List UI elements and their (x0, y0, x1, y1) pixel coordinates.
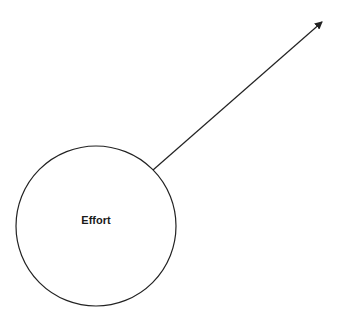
arrow-line (153, 22, 322, 170)
effort-node-circle (16, 146, 176, 306)
effort-node-label: Effort (56, 214, 136, 226)
diagram-canvas (0, 0, 338, 323)
